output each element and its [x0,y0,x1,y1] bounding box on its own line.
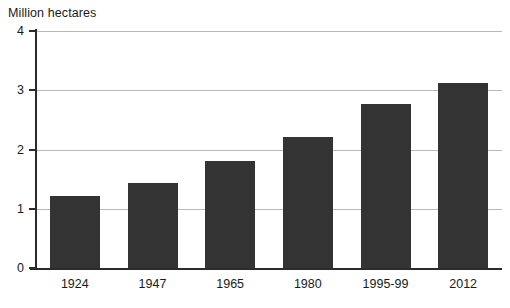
x-axis-line [30,268,502,270]
bar[interactable] [283,137,333,268]
y-axis-tick-mark [29,208,36,210]
x-axis-tick-label: 1965 [191,277,269,291]
x-axis-tick-label: 2012 [424,277,502,291]
y-axis-tick-label: 0 [0,261,24,275]
plot-area [36,31,502,268]
y-axis-tick-label: 4 [0,24,24,38]
bar[interactable] [128,183,178,268]
bar[interactable] [50,196,100,268]
x-axis-tick-label: 1980 [269,277,347,291]
y-axis-tick-mark [29,89,36,91]
y-axis-tick-mark [29,267,36,269]
y-axis-tick-label: 3 [0,83,24,97]
y-axis-tick-mark [29,30,36,32]
x-axis-tick-label: 1924 [36,277,114,291]
y-axis-tick-label: 2 [0,143,24,157]
bar[interactable] [205,161,255,268]
y-axis-tick-mark [29,149,36,151]
y-axis-title: Million hectares [8,6,96,20]
bar-chart: Million hectares 01234 19241947196519801… [0,0,510,308]
y-axis-tick-label: 1 [0,202,24,216]
bar[interactable] [361,104,411,268]
x-axis-tick-label: 1995-99 [347,277,425,291]
x-axis-tick-label: 1947 [114,277,192,291]
bar[interactable] [438,83,488,268]
